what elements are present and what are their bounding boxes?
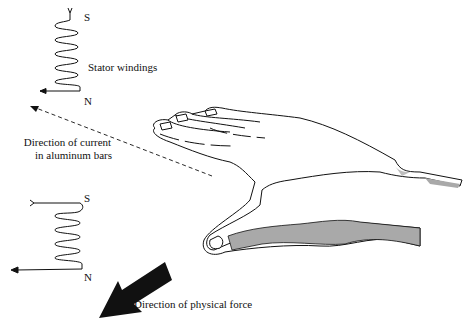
- top-coil-south-label: S: [84, 12, 90, 23]
- top-coil-north-label: N: [84, 96, 92, 107]
- bottom-stator-coil-icon: [11, 200, 83, 273]
- current-direction-label: Direction of current in aluminum bars: [20, 136, 115, 162]
- figure-canvas: S Stator windings N Direction of current…: [0, 0, 470, 334]
- bottom-coil-south-label: S: [84, 193, 90, 204]
- diagram-artwork: [0, 0, 470, 334]
- physical-force-label: Direction of physical force: [134, 298, 252, 311]
- current-direction-line-1: Direction of current: [20, 136, 115, 149]
- top-stator-coil-icon: [40, 8, 80, 94]
- bottom-coil-north-label: N: [84, 272, 92, 283]
- stator-windings-label: Stator windings: [88, 61, 157, 74]
- right-hand-illustration-icon: [153, 107, 462, 254]
- current-direction-line-2: in aluminum bars: [20, 149, 115, 162]
